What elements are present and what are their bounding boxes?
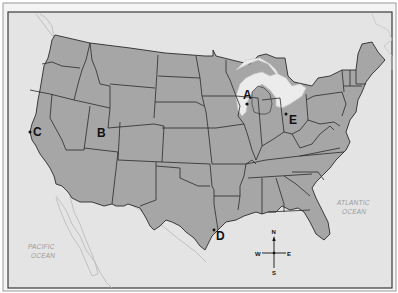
svg-text:OCEAN: OCEAN — [31, 252, 55, 259]
svg-text:B: B — [97, 126, 106, 140]
svg-text:N: N — [272, 229, 276, 235]
svg-text:S: S — [272, 270, 276, 276]
point-b: B — [97, 126, 106, 140]
svg-text:PACIFIC: PACIFIC — [28, 243, 55, 250]
us-map: PACIFIC OCEAN ATLANTIC OCEAN A B C D E N… — [0, 0, 398, 293]
svg-text:A: A — [243, 88, 252, 102]
svg-text:D: D — [216, 229, 225, 243]
svg-text:ATLANTIC: ATLANTIC — [336, 199, 370, 206]
svg-text:E: E — [289, 113, 297, 127]
svg-text:C: C — [33, 125, 42, 139]
svg-text:OCEAN: OCEAN — [342, 208, 366, 215]
svg-text:E: E — [287, 251, 291, 257]
svg-text:W: W — [255, 251, 261, 257]
